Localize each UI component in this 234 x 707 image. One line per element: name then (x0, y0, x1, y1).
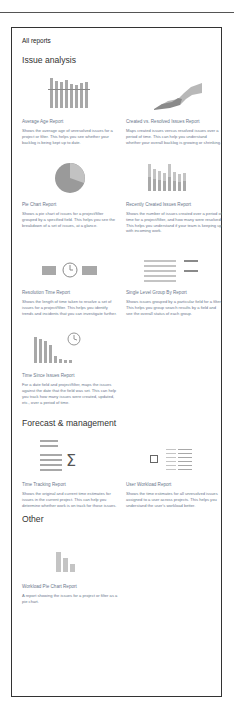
small-bar-chart-icon (22, 528, 118, 580)
pie-chart-icon (22, 152, 118, 198)
report-title[interactable]: Resolution Time Report (22, 290, 118, 296)
report-description: A report showing the issues for a projec… (22, 593, 118, 605)
report-card-workload-pie-chart[interactable]: Workload Pie Chart Report A report showi… (22, 528, 118, 611)
checkbox-icon (150, 455, 158, 463)
report-card-recently-created[interactable]: Recently Created Issues Report Shows the… (126, 152, 222, 241)
report-description: Shows issues grouped by a particular fie… (126, 299, 222, 317)
stacked-bar-chart-icon (126, 152, 222, 198)
clock-timeline-icon (22, 240, 118, 286)
report-card-time-since-issues[interactable]: Time Since Issues Report For a date fiel… (22, 323, 118, 412)
section-title-other: Other (22, 514, 214, 524)
section-forecast-management: Σ Time Tracking Report Shows the origina… (22, 432, 214, 515)
report-title[interactable]: Time Since Issues Report (22, 373, 118, 379)
section-title-forecast-management: Forecast & management (22, 418, 214, 428)
bar-clock-icon (22, 323, 118, 369)
report-description: For a date field and project/filter, map… (22, 382, 118, 406)
report-card-time-tracking[interactable]: Σ Time Tracking Report Shows the origina… (22, 432, 118, 515)
report-title[interactable]: Pie Chart Report (22, 202, 118, 208)
section-title-issue-analysis: Issue analysis (22, 55, 214, 65)
grouped-list-icon (126, 240, 222, 286)
report-title[interactable]: Workload Pie Chart Report (22, 584, 118, 590)
checklist-icon (126, 432, 222, 478)
area-chart-icon (126, 69, 222, 115)
report-card-created-vs-resolved[interactable]: Created vs. Resolved Issues Report Maps … (126, 69, 222, 152)
report-title[interactable]: Created vs. Resolved Issues Report (126, 119, 222, 125)
section-issue-analysis: Average Age Report Shows the average age… (22, 69, 214, 412)
report-card-single-level-group-by[interactable]: Single Level Group By Report Shows issue… (126, 240, 222, 323)
report-card-resolution-time[interactable]: Resolution Time Report Shows the length … (22, 240, 118, 323)
sigma-icon: Σ (66, 452, 76, 470)
report-card-average-age[interactable]: Average Age Report Shows the average age… (22, 69, 118, 152)
report-description: Shows the original and current time esti… (22, 491, 118, 509)
report-description: Shows the time estimates for all unresol… (126, 491, 222, 509)
report-description: Shows a pie chart of issues for a projec… (22, 211, 118, 229)
report-title[interactable]: Single Level Group By Report (126, 290, 222, 296)
report-card-pie-chart[interactable]: Pie Chart Report Shows a pie chart of is… (22, 152, 118, 241)
report-description: Shows the length of time taken to resolv… (22, 299, 118, 317)
report-title[interactable]: Recently Created Issues Report (126, 202, 222, 208)
reports-panel: All reports Issue analysis Average Age R… (11, 27, 222, 697)
bar-chart-icon (22, 69, 118, 115)
report-description: Shows the average age of unresolved issu… (22, 128, 118, 146)
report-description: Shows the number of issues created over … (126, 211, 222, 235)
report-description: Maps created issues versus resolved issu… (126, 128, 222, 146)
report-title[interactable]: Average Age Report (22, 119, 118, 125)
report-title[interactable]: Time Tracking Report (22, 482, 118, 488)
page-title: All reports (22, 36, 214, 49)
top-divider (0, 12, 234, 13)
report-card-user-workload[interactable]: User Workload Report Shows the time esti… (126, 432, 222, 515)
report-title[interactable]: User Workload Report (126, 482, 222, 488)
sigma-list-icon: Σ (22, 432, 118, 478)
section-other: Workload Pie Chart Report A report showi… (22, 528, 214, 611)
